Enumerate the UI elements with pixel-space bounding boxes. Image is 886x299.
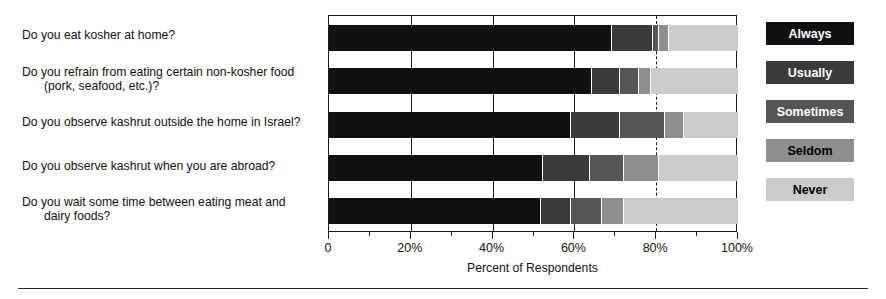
bar-segment-sometimes bbox=[589, 155, 624, 181]
legend-item-usually: Usually bbox=[766, 61, 854, 84]
bar-segment-always bbox=[329, 155, 542, 181]
question-label-line: Do you refrain from eating certain non-k… bbox=[22, 65, 294, 79]
stacked-bar-row bbox=[329, 198, 738, 224]
stacked-bar-row bbox=[329, 25, 738, 51]
x-tick bbox=[737, 232, 738, 239]
bar-segment-seldom bbox=[623, 155, 658, 181]
x-tick-minor bbox=[369, 232, 370, 236]
question-label-column: Do you eat kosher at home?Do you refrain… bbox=[22, 15, 324, 232]
question-label-line: dairy foods? bbox=[22, 209, 324, 224]
x-tick-label: 20% bbox=[397, 241, 422, 255]
legend: AlwaysUsuallySometimesSeldomNever bbox=[766, 22, 866, 217]
question-label: Do you wait some time between eating mea… bbox=[22, 195, 324, 224]
legend-item-never: Never bbox=[766, 178, 854, 201]
x-tick-minor bbox=[696, 232, 697, 236]
x-tick-label: 100% bbox=[721, 241, 753, 255]
stacked-bar-chart-figure: Do you eat kosher at home?Do you refrain… bbox=[0, 0, 886, 299]
bar-segment-seldom bbox=[658, 25, 668, 51]
bar-segment-never bbox=[658, 155, 738, 181]
bottom-divider-rule bbox=[18, 288, 868, 289]
bar-segment-never bbox=[623, 198, 738, 224]
x-tick bbox=[655, 232, 656, 239]
question-label-line: Do you eat kosher at home? bbox=[22, 28, 175, 42]
question-label-line: (pork, seafood, etc.)? bbox=[22, 79, 324, 94]
bar-segment-usually bbox=[611, 25, 652, 51]
bar-segment-always bbox=[329, 198, 540, 224]
question-label-line: Do you observe kashrut outside the home … bbox=[22, 115, 300, 129]
bar-segment-usually bbox=[542, 155, 589, 181]
x-tick bbox=[328, 232, 329, 239]
question-label: Do you refrain from eating certain non-k… bbox=[22, 65, 324, 94]
bar-segment-always bbox=[329, 25, 611, 51]
bar-segment-sometimes bbox=[570, 198, 601, 224]
bar-segment-sometimes bbox=[619, 112, 664, 138]
x-tick-label: 40% bbox=[479, 241, 504, 255]
x-tick bbox=[492, 232, 493, 239]
question-label: Do you observe kashrut when you are abro… bbox=[22, 159, 324, 174]
x-tick-label: 60% bbox=[561, 241, 586, 255]
question-label-line: Do you observe kashrut when you are abro… bbox=[22, 159, 275, 173]
x-tick-label: 80% bbox=[643, 241, 668, 255]
bar-segment-seldom bbox=[638, 68, 650, 94]
question-label-line: Do you wait some time between eating mea… bbox=[22, 195, 286, 209]
x-tick-minor bbox=[451, 232, 452, 236]
legend-item-sometimes: Sometimes bbox=[766, 100, 854, 123]
bar-segment-sometimes bbox=[619, 68, 637, 94]
stacked-bar-row bbox=[329, 112, 738, 138]
x-axis-title: Percent of Respondents bbox=[328, 261, 737, 275]
bar-segment-always bbox=[329, 112, 570, 138]
bar-segment-always bbox=[329, 68, 591, 94]
stacked-bar-row bbox=[329, 155, 738, 181]
bar-segment-usually bbox=[591, 68, 620, 94]
x-tick-minor bbox=[533, 232, 534, 236]
x-tick-label: 0 bbox=[325, 241, 332, 255]
bar-segment-never bbox=[650, 68, 738, 94]
bar-segment-seldom bbox=[601, 198, 623, 224]
x-tick-minor bbox=[614, 232, 615, 236]
plot-area bbox=[328, 15, 737, 232]
x-tick bbox=[410, 232, 411, 239]
question-label: Do you observe kashrut outside the home … bbox=[22, 115, 324, 130]
bar-segment-seldom bbox=[664, 112, 682, 138]
bar-segment-usually bbox=[540, 198, 571, 224]
x-tick bbox=[573, 232, 574, 239]
legend-item-always: Always bbox=[766, 22, 854, 45]
bar-segment-usually bbox=[570, 112, 619, 138]
x-axis: 020%40%60%80%100% bbox=[328, 232, 737, 233]
question-label: Do you eat kosher at home? bbox=[22, 28, 324, 43]
legend-item-seldom: Seldom bbox=[766, 139, 854, 162]
stacked-bar-row bbox=[329, 68, 738, 94]
bar-segment-never bbox=[683, 112, 738, 138]
bar-segment-never bbox=[668, 25, 738, 51]
